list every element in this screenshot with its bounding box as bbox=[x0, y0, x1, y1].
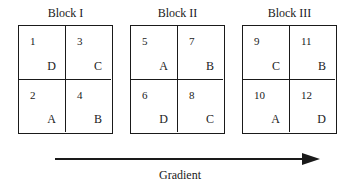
plot-number: 2 bbox=[30, 89, 36, 101]
plot-cell: 4 B bbox=[65, 79, 111, 132]
plot-number: 5 bbox=[142, 35, 148, 47]
block-title: Block III bbox=[242, 6, 337, 20]
treatment-label: B bbox=[318, 60, 326, 73]
block-grid: 5 A 7 B 6 D 8 C bbox=[130, 25, 225, 134]
plot-cell: 1 D bbox=[19, 26, 65, 79]
plot-cell: 3 C bbox=[65, 26, 111, 79]
plot-number: 6 bbox=[142, 89, 148, 101]
gradient-label: Gradient bbox=[130, 168, 230, 182]
treatment-label: C bbox=[206, 113, 214, 126]
plot-number: 1 bbox=[30, 35, 36, 47]
plot-cell: 11 B bbox=[289, 26, 335, 79]
plot-number: 4 bbox=[77, 89, 83, 101]
plot-cell: 9 C bbox=[243, 26, 289, 79]
plot-number: 11 bbox=[301, 35, 312, 47]
plot-number: 8 bbox=[189, 89, 195, 101]
treatment-label: A bbox=[271, 113, 280, 126]
treatment-label: D bbox=[317, 113, 326, 126]
plot-cell: 8 C bbox=[177, 79, 223, 132]
treatment-label: A bbox=[159, 60, 168, 73]
treatment-label: D bbox=[47, 60, 56, 73]
plot-cell: 10 A bbox=[243, 79, 289, 132]
block-title: Block I bbox=[18, 6, 113, 20]
treatment-label: C bbox=[94, 60, 102, 73]
block-title: Block II bbox=[130, 6, 225, 20]
plot-cell: 12 D bbox=[289, 79, 335, 132]
treatment-label: B bbox=[206, 60, 214, 73]
plot-number: 9 bbox=[254, 35, 260, 47]
plot-cell: 2 A bbox=[19, 79, 65, 132]
plot-number: 3 bbox=[77, 35, 83, 47]
treatment-label: C bbox=[272, 60, 280, 73]
plot-number: 10 bbox=[254, 89, 265, 101]
plot-cell: 6 D bbox=[131, 79, 177, 132]
block-grid: 1 D 3 C 2 A 4 B bbox=[18, 25, 113, 134]
plot-cell: 7 B bbox=[177, 26, 223, 79]
block-grid: 9 C 11 B 10 A 12 D bbox=[242, 25, 337, 134]
plot-number: 12 bbox=[301, 89, 312, 101]
plot-number: 7 bbox=[189, 35, 195, 47]
treatment-label: B bbox=[94, 113, 102, 126]
plot-cell: 5 A bbox=[131, 26, 177, 79]
treatment-label: A bbox=[47, 113, 56, 126]
gradient-arrow-icon bbox=[55, 152, 320, 166]
treatment-label: D bbox=[159, 113, 168, 126]
